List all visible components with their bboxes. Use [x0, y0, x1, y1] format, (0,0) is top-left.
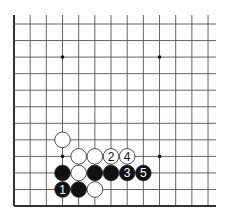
black-stone-icon — [71, 182, 87, 198]
move-number-label: 1 — [59, 183, 66, 197]
white-stone-icon — [55, 132, 71, 148]
white-stone-move-2: 2 — [103, 149, 119, 165]
black-stone — [87, 165, 103, 181]
black-stone-move-3: 3 — [119, 165, 135, 181]
star-point-icon — [61, 155, 65, 159]
white-stone — [87, 182, 103, 198]
move-number-label: 5 — [140, 166, 147, 180]
white-stone-move-4: 4 — [119, 149, 135, 165]
move-number-label: 3 — [124, 166, 131, 180]
white-stone-icon — [87, 149, 103, 165]
stones: 24351 — [55, 132, 151, 197]
black-stone-icon — [55, 165, 71, 181]
white-stone — [71, 149, 87, 165]
white-stone-icon — [71, 165, 87, 181]
star-point-icon — [158, 155, 162, 159]
black-stone-icon — [103, 165, 119, 181]
black-stone — [55, 165, 71, 181]
white-stone-icon — [87, 182, 103, 198]
black-stone — [71, 182, 87, 198]
go-board: 24351 — [0, 0, 232, 218]
star-point-icon — [158, 55, 162, 59]
black-stone-move-1: 1 — [55, 182, 71, 198]
white-stone — [87, 149, 103, 165]
white-stone — [71, 165, 87, 181]
white-stone-icon — [71, 149, 87, 165]
move-number-label: 4 — [124, 150, 131, 164]
star-point-icon — [61, 55, 65, 59]
white-stone — [55, 132, 71, 148]
move-number-label: 2 — [108, 150, 115, 164]
black-stone-icon — [87, 165, 103, 181]
black-stone — [103, 165, 119, 181]
black-stone-move-5: 5 — [136, 165, 152, 181]
